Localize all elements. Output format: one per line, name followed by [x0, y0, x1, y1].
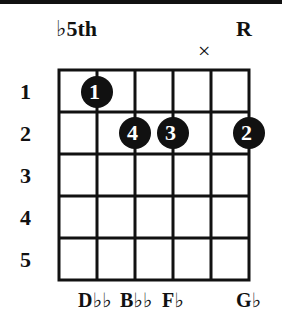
note-label-string-2: D♭♭	[78, 290, 111, 310]
fretboard-grid	[0, 0, 282, 330]
note-label-string-6: G♭	[236, 290, 261, 310]
note-label-string-3: B♭♭	[120, 290, 152, 310]
finger-number-2: 2	[241, 122, 252, 144]
finger-number-4: 4	[127, 122, 138, 144]
note-label-string-4: F♭	[162, 290, 184, 310]
finger-number-1: 1	[89, 81, 100, 103]
finger-number-3: 3	[165, 122, 176, 144]
